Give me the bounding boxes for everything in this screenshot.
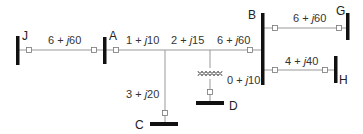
bus-G [346,13,350,40]
terminal-A-right [114,48,119,53]
bus-H [334,56,338,83]
bus-C [150,122,178,126]
bus-A [103,37,107,64]
impedance-A-1: 1 + j10 [126,34,159,46]
terminal-H [323,68,328,73]
impedance-D: 0 + j10 [227,74,260,86]
bus-J [16,36,20,65]
bus-label-C: C [135,118,144,132]
bus-label-A: A [109,29,117,43]
impedance-B-G: 6 + j60 [293,12,326,24]
bus-label-B: B [248,8,256,22]
bus-label-D: D [229,99,238,113]
bus-label-J: J [22,29,28,43]
bus-D [196,101,224,105]
transformer-icon [198,71,222,76]
impedance-B-H: 4 + j40 [285,55,318,67]
terminal-G [337,26,342,31]
bus-label-H: H [339,73,348,87]
bus-label-G: G [336,4,345,18]
terminal-J [27,48,32,53]
terminal-C [163,111,168,116]
impedance-J-A: 6 + j60 [48,34,81,46]
terminal-A-left [92,48,97,53]
impedance-C: 3 + j20 [126,88,159,100]
impedance-1-2: 2 + j15 [171,34,204,46]
impedance-2-B: 6 + j60 [217,34,250,46]
one-line-diagram: J A B C D G H 6 + j60 1 + j10 2 + j15 6 … [0,0,363,134]
terminal-D [208,90,213,95]
terminal-B-left [248,48,253,53]
terminal-B-G [273,26,278,31]
terminal-B-H [273,68,278,73]
bus-B [261,13,265,85]
